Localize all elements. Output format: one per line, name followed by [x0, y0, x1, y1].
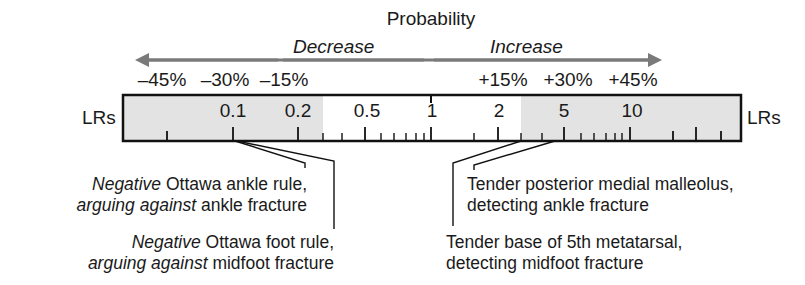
- pct-plus-15: +15%: [478, 69, 527, 91]
- lrs-label-right: LRs: [747, 107, 781, 129]
- tick-label-1: 1: [427, 100, 438, 122]
- tick-label-10: 10: [621, 100, 642, 122]
- tick-label-0.1: 0.1: [220, 100, 246, 122]
- tick-label-0.2: 0.2: [285, 100, 311, 122]
- unshaded-region: [323, 96, 521, 140]
- ottawa-ankle-italic: Negative: [92, 174, 161, 194]
- tick-label-0.5: 0.5: [354, 100, 380, 122]
- malleolus-line1: Tender posterior medial malleolus,: [467, 174, 734, 195]
- pct-minus-45: –45%: [138, 69, 187, 91]
- malleolus-line2: detecting ankle fracture: [467, 195, 734, 216]
- annotation-ottawa-ankle: Negative Ottawa ankle rule, arguing agai…: [76, 174, 307, 216]
- annotation-ottawa-foot: Negative Ottawa foot rule, arguing again…: [88, 232, 334, 274]
- pct-plus-30: +30%: [543, 69, 592, 91]
- annotation-metatarsal: Tender base of 5th metatarsal, detecting…: [446, 232, 682, 274]
- ottawa-ankle-italic2: arguing against: [76, 195, 196, 215]
- ottawa-ankle-text2: ankle fracture: [196, 195, 307, 215]
- pct-minus-15: –15%: [260, 69, 309, 91]
- ottawa-foot-text2: midfoot fracture: [208, 253, 334, 273]
- lrs-label-left: LRs: [82, 107, 116, 129]
- pct-minus-30: –30%: [201, 69, 250, 91]
- ottawa-ankle-text1: Ottawa ankle rule,: [161, 174, 307, 194]
- metatarsal-line1: Tender base of 5th metatarsal,: [446, 232, 682, 253]
- tick-label-2: 2: [494, 100, 505, 122]
- pct-plus-45: +45%: [608, 69, 657, 91]
- annotation-malleolus: Tender posterior medial malleolus, detec…: [467, 174, 734, 216]
- ottawa-foot-italic: Negative: [132, 232, 201, 252]
- metatarsal-line2: detecting midfoot fracture: [446, 253, 682, 274]
- tick-label-5: 5: [559, 100, 570, 122]
- ottawa-foot-italic2: arguing against: [88, 253, 208, 273]
- ottawa-foot-text1: Ottawa foot rule,: [201, 232, 334, 252]
